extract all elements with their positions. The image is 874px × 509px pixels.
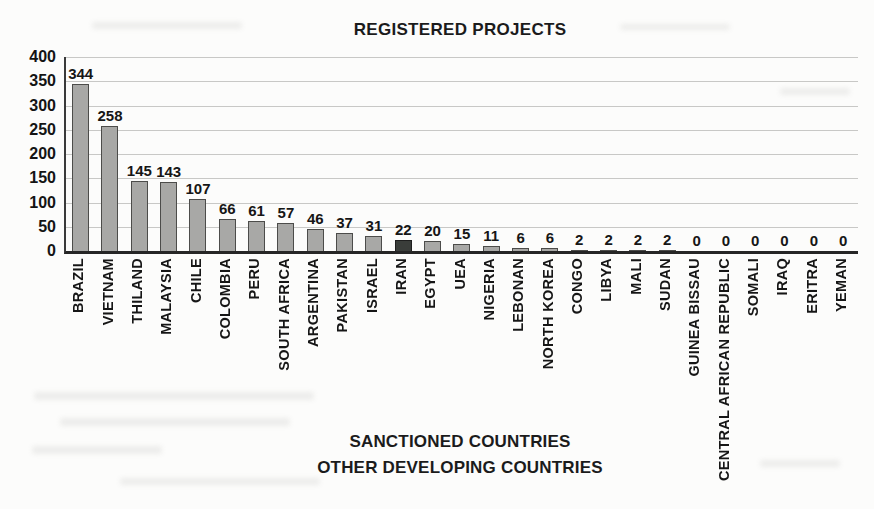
bar-slot-chile: 107	[183, 57, 212, 251]
x-category-label-iran: IRAN	[394, 258, 409, 295]
x-category-label-brazil: BRAZIL	[71, 258, 86, 313]
bar-value-label: 6	[516, 230, 524, 245]
bar-slot-mali: 2	[623, 57, 652, 251]
bar-series: 3442581451431076661574637312220151166222…	[66, 57, 858, 251]
x-category-label-chile: CHILE	[189, 258, 204, 303]
x-category-label-peru: PERU	[247, 258, 262, 300]
bar-israel	[365, 236, 382, 251]
x-category-label-malaysia: MALAYSIA	[159, 258, 174, 335]
x-axis-title-line1: SANCTIONED COUNTRIES	[64, 429, 856, 455]
bar-slot-guinea-bissau: 0	[682, 57, 711, 251]
bar-slot-israel: 31	[359, 57, 388, 251]
bar-slot-iraq: 0	[770, 57, 799, 251]
bar-slot-nigeria: 11	[477, 57, 506, 251]
bar-value-label: 61	[248, 203, 265, 218]
y-tick-label-100: 100	[29, 195, 56, 211]
bar-slot-central-african-republic: 0	[711, 57, 740, 251]
bar-colombia	[219, 219, 236, 251]
bar-value-label: 37	[336, 215, 353, 230]
bar-congo	[571, 250, 588, 251]
bar-slot-somali: 0	[741, 57, 770, 251]
y-tick-label-400: 400	[29, 49, 56, 65]
x-category-label-iraq: IRAQ	[775, 258, 790, 295]
bar-malaysia	[160, 182, 177, 251]
bar-south-africa	[277, 223, 294, 251]
x-axis-title-line2: OTHER DEVELOPING COUNTRIES	[64, 455, 856, 481]
bar-value-label: 20	[424, 223, 441, 238]
bar-value-label: 15	[454, 226, 471, 241]
bar-value-label: 145	[127, 163, 152, 178]
bar-slot-vietnam: 258	[95, 57, 124, 251]
y-axis-tick-labels: 400350300250200150100500	[0, 57, 56, 251]
bar-pakistan	[336, 233, 353, 251]
bar-value-label: 0	[839, 233, 847, 248]
bar-vietnam	[101, 126, 118, 251]
bar-value-label: 0	[810, 233, 818, 248]
bar-north-korea	[541, 248, 558, 251]
x-category-label-congo: CONGO	[570, 258, 585, 314]
bar-uea	[453, 244, 470, 251]
bar-slot-colombia: 66	[213, 57, 242, 251]
bar-slot-uea: 15	[447, 57, 476, 251]
y-tick-label-250: 250	[29, 122, 56, 138]
bar-egypt	[424, 241, 441, 251]
x-category-label-yeman: YEMAN	[834, 258, 849, 312]
bar-slot-iran: 22	[389, 57, 418, 251]
bar-lebonan	[512, 248, 529, 251]
bar-slot-egypt: 20	[418, 57, 447, 251]
bar-value-label: 0	[692, 233, 700, 248]
bar-peru	[248, 221, 265, 251]
x-category-label-sudan: SUDAN	[658, 258, 673, 311]
x-category-label-north-korea: NORTH KOREA	[541, 258, 556, 369]
y-tick-label-200: 200	[29, 146, 56, 162]
bar-slot-peru: 61	[242, 57, 271, 251]
bar-value-label: 57	[278, 205, 295, 220]
bar-value-label: 2	[634, 232, 642, 247]
x-category-label-thiland: THILAND	[130, 258, 145, 324]
bar-nigeria	[483, 246, 500, 251]
x-category-label-south-africa: SOUTH AFRICA	[277, 258, 292, 371]
bar-iran	[395, 240, 412, 251]
plot-area: 3442581451431076661574637312220151166222…	[64, 57, 858, 254]
bar-argentina	[307, 229, 324, 251]
y-tick-label-50: 50	[38, 219, 56, 235]
bar-value-label: 66	[219, 201, 236, 216]
x-category-label-argentina: ARGENTINA	[306, 258, 321, 347]
bar-value-label: 0	[780, 233, 788, 248]
scanned-document-page: REGISTERED PROJECTS 40035030025020015010…	[0, 0, 874, 509]
bar-value-label: 258	[97, 108, 122, 123]
bar-mali	[629, 250, 646, 251]
x-category-label-israel: ISRAEL	[365, 258, 380, 313]
bar-value-label: 0	[722, 233, 730, 248]
bar-slot-thiland: 145	[125, 57, 154, 251]
y-tick-label-150: 150	[29, 170, 56, 186]
bar-value-label: 344	[68, 66, 93, 81]
bar-sudan	[659, 250, 676, 251]
bar-slot-south-africa: 57	[271, 57, 300, 251]
x-category-label-pakistan: PAKISTAN	[335, 258, 350, 332]
bar-thiland	[131, 181, 148, 251]
bar-slot-malaysia: 143	[154, 57, 183, 251]
x-category-label-colombia: COLOMBIA	[218, 258, 233, 339]
bar-libya	[600, 250, 617, 251]
bar-value-label: 143	[156, 164, 181, 179]
bar-value-label: 2	[663, 232, 671, 247]
bar-value-label: 46	[307, 211, 324, 226]
bar-brazil	[72, 84, 89, 251]
bar-value-label: 11	[483, 228, 499, 243]
bar-slot-brazil: 344	[66, 57, 95, 251]
bar-slot-libya: 2	[594, 57, 623, 251]
bar-value-label: 2	[604, 232, 612, 247]
bar-chile	[189, 199, 206, 251]
y-tick-label-0: 0	[47, 243, 56, 259]
bar-slot-lebonan: 6	[506, 57, 535, 251]
x-category-label-uea: UEA	[453, 258, 468, 290]
y-tick-label-350: 350	[29, 73, 56, 89]
x-category-label-egypt: EGYPT	[423, 258, 438, 309]
x-category-label-libya: LIBYA	[599, 258, 614, 302]
x-category-label-somali: SOMALI	[746, 258, 761, 316]
y-tick-label-300: 300	[29, 98, 56, 114]
bar-value-label: 31	[366, 218, 383, 233]
x-axis-title: SANCTIONED COUNTRIES OTHER DEVELOPING CO…	[64, 429, 856, 480]
bar-slot-yeman: 0	[829, 57, 858, 251]
